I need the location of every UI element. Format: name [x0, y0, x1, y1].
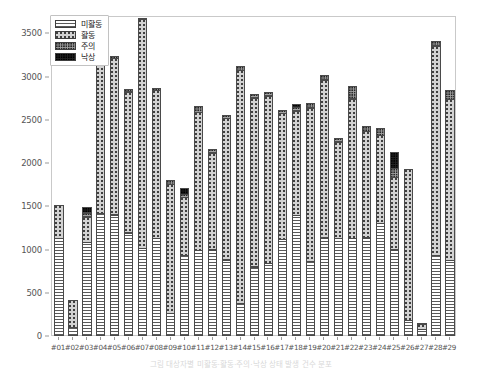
bar-segment-active — [390, 177, 399, 250]
bar-segment-active — [138, 19, 147, 249]
bar-segment-active — [278, 113, 287, 239]
bar-segment-active — [82, 217, 91, 243]
bar-stack — [362, 126, 371, 335]
legend-item[interactable]: 주의 — [55, 41, 102, 51]
bar-stack — [306, 103, 315, 335]
bar-stack — [250, 94, 259, 335]
bar-segment-inactive — [194, 250, 203, 336]
x-tick-mark — [421, 337, 422, 340]
bar-stack — [166, 180, 175, 335]
bar-segment-inactive — [250, 267, 259, 336]
x-tick-mark — [351, 337, 352, 340]
x-tick-label: #17 — [274, 343, 288, 352]
bar-segment-inactive — [124, 233, 133, 336]
bar-stack — [334, 138, 343, 335]
bar-segment-active — [222, 118, 231, 260]
legend-label: 미활동 — [81, 20, 102, 29]
bar-segment-inactive — [180, 255, 189, 335]
bar-segment-active — [68, 300, 77, 328]
bar-stack — [68, 300, 77, 335]
bar-segment-inactive — [236, 303, 245, 336]
bar-stack — [124, 89, 133, 335]
x-tick-label: #13 — [218, 343, 232, 352]
bar-stack — [152, 88, 161, 335]
figure-caption: 그림 대상자별 미활동·활동·주의·낙상 상태 발생 건수 분포 — [0, 358, 482, 369]
legend-item[interactable]: 낙상 — [55, 52, 102, 62]
bar-segment-active — [264, 96, 273, 264]
y-tick-mark — [45, 163, 49, 164]
bar-segment-active — [96, 59, 105, 214]
x-tick-label: #10 — [177, 343, 191, 352]
legend-swatch-inactive — [55, 20, 76, 28]
y-tick-mark — [45, 249, 49, 250]
legend-item[interactable]: 활동 — [55, 30, 102, 40]
bar-segment-active — [334, 142, 343, 239]
bar-segment-active — [152, 90, 161, 239]
x-tick-label: #19 — [302, 343, 316, 352]
bar-segment-active — [110, 58, 119, 215]
bar-segment-inactive — [68, 327, 77, 336]
x-tick-mark — [240, 337, 241, 340]
x-tick-mark — [170, 337, 171, 340]
bar-stack — [180, 188, 189, 335]
x-tick-label: #18 — [288, 343, 302, 352]
bar-segment-inactive — [292, 215, 301, 335]
y-tick-mark — [45, 33, 49, 34]
bar-segment-active — [292, 111, 301, 217]
x-tick-label: #26 — [400, 343, 414, 352]
x-tick-mark — [365, 337, 366, 340]
x-tick-label: #24 — [372, 343, 386, 352]
bar-segment-active — [306, 108, 315, 262]
x-tick-mark — [142, 337, 143, 340]
x-tick-mark — [100, 337, 101, 340]
bar-stack — [390, 152, 399, 335]
bar-stack — [222, 115, 231, 335]
x-tick-label: #09 — [163, 343, 177, 352]
bar-segment-inactive — [445, 260, 454, 335]
x-tick-mark — [128, 337, 129, 340]
legend-swatch-active — [55, 31, 76, 39]
bar-segment-active — [376, 135, 385, 224]
bar-segment-active — [445, 99, 454, 261]
x-tick-label: #01 — [51, 343, 65, 352]
bar-segment-inactive — [152, 238, 161, 336]
y-tick-label: 2000 — [21, 158, 42, 168]
bar-segment-inactive — [54, 238, 63, 336]
bar-segment-inactive — [376, 223, 385, 335]
x-tick-mark — [198, 337, 199, 340]
bar-stack — [82, 207, 91, 335]
x-tick-mark — [72, 337, 73, 340]
bar-stack — [54, 205, 63, 336]
bar-segment-inactive — [320, 238, 329, 336]
y-tick-label: 2500 — [21, 115, 42, 125]
legend-label: 활동 — [81, 31, 95, 40]
bar-segment-active — [250, 98, 259, 268]
bar-segment-inactive — [82, 242, 91, 336]
x-tick-label: #04 — [93, 343, 107, 352]
y-tick-label: 1000 — [21, 245, 42, 255]
x-tick-label: #02 — [65, 343, 79, 352]
legend-label: 주의 — [81, 42, 95, 51]
x-tick-mark — [86, 337, 87, 340]
x-tick-mark — [295, 337, 296, 340]
x-tick-mark — [58, 337, 59, 340]
bar-segment-inactive — [264, 263, 273, 336]
bar-segment-inactive — [348, 238, 357, 336]
bar-segment-inactive — [166, 313, 175, 335]
x-tick-mark — [281, 337, 282, 340]
bar-stack — [348, 86, 357, 335]
bar-segment-caution — [348, 86, 357, 99]
bar-segment-inactive — [334, 238, 343, 336]
bar-stack — [208, 149, 217, 335]
bar-segment-active — [194, 112, 203, 251]
legend-label: 낙상 — [81, 53, 95, 62]
bar-stack — [194, 106, 203, 335]
bar-segment-inactive — [404, 320, 413, 336]
x-tick-label: #20 — [316, 343, 330, 352]
legend-item[interactable]: 미활동 — [55, 19, 102, 29]
x-tick-label: #25 — [386, 343, 400, 352]
x-tick-label: #21 — [330, 343, 344, 352]
x-tick-label: #28 — [428, 343, 442, 352]
legend-swatch-caution — [55, 42, 76, 50]
bar-stack — [417, 323, 426, 335]
